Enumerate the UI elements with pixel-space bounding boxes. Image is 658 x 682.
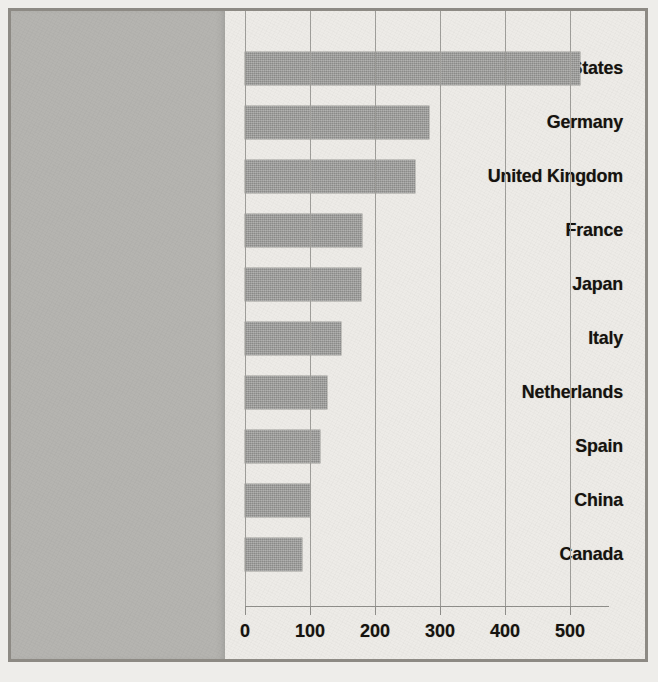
category-label-netherlands: Netherlands bbox=[443, 365, 623, 419]
category-label-japan: Japan bbox=[443, 257, 623, 311]
bar-spain[interactable] bbox=[245, 430, 320, 463]
x-tick-500 bbox=[570, 606, 571, 615]
category-label-united-kingdom: United Kingdom bbox=[443, 149, 623, 203]
bar-france[interactable] bbox=[245, 214, 362, 247]
bar-chart-figure: United StatesGermanyUnited KingdomFrance… bbox=[8, 8, 648, 662]
x-tick-0 bbox=[245, 606, 246, 615]
category-label-spain: Spain bbox=[443, 419, 623, 473]
bar-united-states[interactable] bbox=[245, 52, 580, 85]
bar-netherlands[interactable] bbox=[245, 376, 327, 409]
x-tick-label-100: 100 bbox=[295, 620, 325, 642]
bar-row: Germany bbox=[11, 95, 645, 149]
gridline-0 bbox=[245, 11, 246, 606]
gridline-200 bbox=[375, 11, 376, 606]
category-label-canada: Canada bbox=[443, 527, 623, 581]
bar-italy[interactable] bbox=[245, 322, 341, 355]
gridline-100 bbox=[310, 11, 311, 606]
bar-row: Netherlands bbox=[11, 365, 645, 419]
x-tick-200 bbox=[375, 606, 376, 615]
gridline-500 bbox=[570, 11, 571, 606]
bar-row: Canada bbox=[11, 527, 645, 581]
category-label-france: France bbox=[443, 203, 623, 257]
x-tick-label-0: 0 bbox=[240, 620, 250, 642]
bar-china[interactable] bbox=[245, 484, 310, 517]
x-tick-100 bbox=[310, 606, 311, 615]
gridline-300 bbox=[440, 11, 441, 606]
bar-row: United Kingdom bbox=[11, 149, 645, 203]
bar-united-kingdom[interactable] bbox=[245, 160, 415, 193]
x-tick-label-500: 500 bbox=[555, 620, 585, 642]
category-label-italy: Italy bbox=[443, 311, 623, 365]
x-tick-label-200: 200 bbox=[360, 620, 390, 642]
bar-canada[interactable] bbox=[245, 538, 302, 571]
x-tick-label-300: 300 bbox=[425, 620, 455, 642]
gridline-400 bbox=[505, 11, 506, 606]
bar-germany[interactable] bbox=[245, 106, 429, 139]
x-tick-label-400: 400 bbox=[490, 620, 520, 642]
x-tick-400 bbox=[505, 606, 506, 615]
bar-row: United States bbox=[11, 41, 645, 95]
category-label-germany: Germany bbox=[443, 95, 623, 149]
bar-row: Japan bbox=[11, 257, 645, 311]
x-axis-line bbox=[245, 606, 609, 607]
bar-row: China bbox=[11, 473, 645, 527]
category-label-china: China bbox=[443, 473, 623, 527]
x-tick-300 bbox=[440, 606, 441, 615]
bar-row: Spain bbox=[11, 419, 645, 473]
bar-row: France bbox=[11, 203, 645, 257]
bar-row: Italy bbox=[11, 311, 645, 365]
bar-japan[interactable] bbox=[245, 268, 361, 301]
